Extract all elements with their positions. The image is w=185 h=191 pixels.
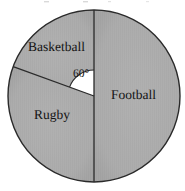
pie-chart-graphic <box>0 0 185 191</box>
pie-chart-figure: Basketball Football Rugby 60° <box>0 0 185 191</box>
pie-label-angle-60: 60° <box>73 69 89 81</box>
pie-label-rugby: Rugby <box>34 108 70 122</box>
pie-label-football: Football <box>111 88 156 102</box>
pie-label-basketball: Basketball <box>28 40 85 54</box>
